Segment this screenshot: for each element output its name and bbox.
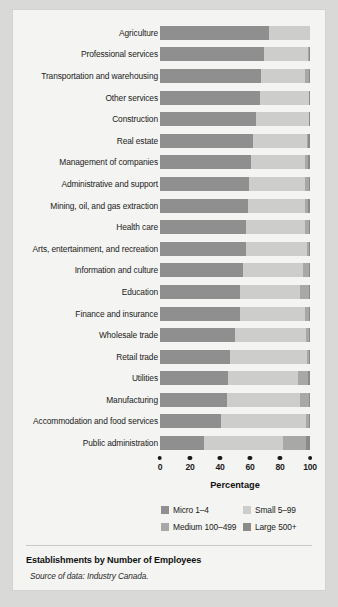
bar-segment-small (246, 242, 308, 256)
bar-segment-medium (300, 393, 308, 407)
bar-segment-micro (160, 199, 248, 213)
bar-segment-small (240, 285, 300, 299)
bar-segment-small (269, 26, 310, 40)
stacked-bar (160, 328, 310, 342)
bar-segment-micro (160, 69, 261, 83)
chart-row: Administrative and support (13, 173, 325, 195)
category-label: Mining, oil, and gas extraction (50, 201, 158, 211)
stacked-bar (160, 242, 310, 256)
stacked-bar (160, 199, 310, 213)
bar-segment-large (309, 242, 310, 256)
bar-segment-small (261, 69, 305, 83)
bar-segment-micro (160, 155, 251, 169)
bar-segment-micro (160, 371, 228, 385)
bar-segment-large (309, 263, 311, 277)
chart-row: Wholesale trade (13, 324, 325, 346)
stacked-bar (160, 263, 310, 277)
bar-segment-large (308, 134, 310, 148)
category-label: Health care (116, 222, 158, 232)
stacked-bar (160, 91, 310, 105)
divider (26, 545, 312, 546)
x-axis-tick: 60 (245, 456, 254, 472)
bar-segment-small (221, 414, 306, 428)
bar-segment-micro (160, 91, 260, 105)
stacked-bar (160, 112, 310, 126)
bar-segment-micro (160, 393, 227, 407)
stacked-bar (160, 220, 310, 234)
bar-segment-micro (160, 285, 240, 299)
bar-segment-medium (298, 371, 308, 385)
legend-swatch-icon (161, 506, 169, 514)
stacked-bar (160, 69, 310, 83)
bar-segment-micro (160, 47, 264, 61)
bar-segment-small (253, 134, 307, 148)
bar-segment-large (309, 69, 311, 83)
bar-segment-micro (160, 26, 269, 40)
bar-segment-micro (160, 134, 253, 148)
chart-row: Arts, entertainment, and recreation (13, 238, 325, 260)
bar-segment-micro (160, 263, 243, 277)
chart-row: Other services (13, 87, 325, 109)
category-label: Manufacturing (106, 395, 158, 405)
legend-swatch-icon (243, 523, 251, 531)
legend-label: Micro 1–4 (173, 505, 209, 515)
legend-item: Micro 1–4 (161, 505, 243, 515)
stacked-bar (160, 307, 310, 321)
category-label: Management of companies (59, 157, 158, 167)
category-label: Administrative and support (61, 179, 158, 189)
stacked-bar (160, 414, 310, 428)
bar-segment-large (309, 350, 310, 364)
figure-caption: Establishments by Number of Employees (26, 555, 201, 565)
bar-segment-large (309, 307, 311, 321)
legend-label: Small 5–99 (255, 505, 296, 515)
stacked-bar (160, 26, 310, 40)
bar-segment-micro (160, 220, 246, 234)
tick-dot-icon (308, 456, 312, 460)
legend-swatch-icon (161, 523, 169, 531)
figure-source: Source of data: Industry Canada. (30, 571, 149, 581)
chart-row: Retail trade (13, 346, 325, 368)
category-label: Agriculture (119, 28, 158, 38)
bar-segment-large (306, 436, 311, 450)
chart-row: Professional services (13, 44, 325, 66)
category-label: Construction (112, 114, 158, 124)
bar-segment-large (309, 414, 310, 428)
bar-segment-micro (160, 436, 204, 450)
x-axis-tick: 100 (303, 456, 317, 472)
category-label: Transportation and warehousing (41, 71, 158, 81)
x-axis-tick: 40 (215, 456, 224, 472)
chart-row: Agriculture (13, 22, 325, 44)
category-label: Public administration (83, 438, 158, 448)
bar-segment-large (309, 220, 311, 234)
tick-dot-icon (218, 456, 222, 460)
legend-label: Large 500+ (255, 522, 297, 532)
bar-segment-small (260, 91, 309, 105)
bar-segment-large (309, 177, 311, 191)
chart-legend: Micro 1–4Small 5–99Medium 100–499Large 5… (161, 501, 325, 535)
legend-item: Medium 100–499 (161, 522, 243, 532)
chart-row: Finance and insurance (13, 303, 325, 325)
bar-segment-large (308, 199, 310, 213)
tick-dot-icon (248, 456, 252, 460)
bar-segment-small (243, 263, 303, 277)
bar-segment-small (204, 436, 284, 450)
legend-label: Medium 100–499 (173, 522, 236, 532)
bar-segment-small (235, 328, 306, 342)
chart-row: Management of companies (13, 152, 325, 174)
figure-panel: AgricultureProfessional servicesTranspor… (13, 10, 325, 590)
bar-segment-micro (160, 112, 256, 126)
legend-item: Large 500+ (243, 522, 325, 532)
bar-segment-micro (160, 328, 235, 342)
tick-label: 100 (303, 462, 317, 472)
bar-segment-large (308, 155, 310, 169)
category-label: Information and culture (75, 265, 158, 275)
stacked-bar (160, 134, 310, 148)
category-label: Education (122, 287, 158, 297)
category-label: Wholesale trade (99, 330, 158, 340)
legend-row: Micro 1–4Small 5–99 (161, 501, 325, 518)
bar-segment-small (251, 155, 305, 169)
chart-row: Accommodation and food services (13, 411, 325, 433)
bar-segment-small (240, 307, 305, 321)
tick-label: 80 (275, 462, 284, 472)
chart-row: Utilities (13, 368, 325, 390)
